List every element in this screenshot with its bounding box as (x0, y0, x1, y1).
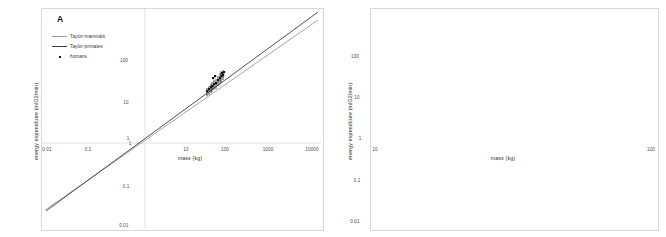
panel-a-xtick-0: 0.01 (42, 147, 51, 152)
panel-a-legend-item-humans: humans (52, 54, 105, 60)
panel-a-legend-item-taylor-mammals: Taylor-mammals (52, 33, 105, 39)
panel-a-ytick-1: 10 (123, 100, 128, 105)
panel-b-ytick-3: 0.1 (354, 178, 361, 183)
panel-a-x-axis-title: mass (kg) (178, 155, 203, 161)
panel-b: B (333, 0, 666, 237)
panel-a-xtick-3: 10 (183, 147, 188, 152)
panel-a-legend-label-primates: Taylor-primates (70, 44, 103, 49)
panel-a-xtick-1: 0.1 (85, 147, 92, 152)
panel-a-xtick-4: 100 (221, 147, 229, 152)
panel-a-xtick-6: 10000 (305, 147, 318, 152)
panel-b-ytick-4: 0.01 (350, 219, 359, 224)
panel-b-ytick-0: 100 (351, 54, 359, 59)
panel-b-plot-area (370, 8, 659, 231)
panel-a-xtick-5: 1000 (263, 147, 274, 152)
panel-a-ytick-0: 100 (120, 58, 128, 63)
panel-a-graphics (0, 0, 333, 237)
panel-a-y-axis-title: energy expenditure (mlO2/min) (33, 83, 39, 160)
panel-a-legend-label-mammals: Taylor-mammals (70, 34, 105, 39)
panel-b-ytick-2: 1 (359, 136, 362, 141)
panel-a: A (0, 0, 333, 237)
panel-a-legend-item-taylor-primates: Taylor-primates (52, 43, 105, 49)
panel-b-x-axis-title: mass (kg) (491, 155, 516, 161)
line-swatch-icon (52, 46, 67, 47)
panel-a-ytick-3: 0.1 (123, 184, 130, 189)
panel-b-xtick-0: 10 (372, 147, 377, 152)
panel-b-ytick-1: 10 (354, 95, 359, 100)
line-swatch-icon (52, 36, 67, 37)
panel-b-xtick-1: 100 (647, 147, 655, 152)
panel-a-legend: Taylor-mammals Taylor-primates humans (52, 33, 105, 60)
panel-b-y-axis-title: energy expenditure (mlO2/min) (347, 83, 353, 160)
square-marker-icon (52, 56, 67, 58)
figure-energy-expenditure-vs-mass: A (0, 0, 666, 237)
panel-a-ytick-4: 0.01 (119, 223, 128, 228)
panel-a-legend-label-humans: humans (70, 54, 87, 59)
panel-a-ytick-2: 1 (129, 141, 132, 146)
